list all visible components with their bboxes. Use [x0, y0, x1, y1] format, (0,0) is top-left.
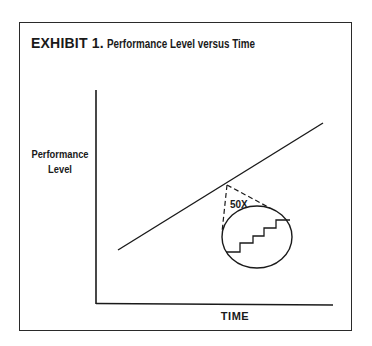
- x-axis: [96, 304, 333, 306]
- magnified-inset-circle: [222, 206, 292, 268]
- plot-area: [0, 0, 372, 346]
- magnification-label: 50X: [230, 199, 248, 210]
- performance-trend-line: [118, 123, 323, 250]
- staircase-steps: [226, 220, 290, 252]
- x-axis-label: TIME: [200, 310, 270, 322]
